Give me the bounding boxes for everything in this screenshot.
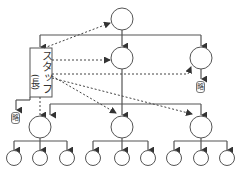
node-level3-center [111, 116, 133, 138]
omission-label-right: 略 [196, 81, 205, 93]
org-chart: スタッフ (長) 略 略 [0, 0, 244, 174]
node-level3-right [190, 116, 212, 138]
node-level2-right [190, 47, 212, 69]
node-level4 [7, 151, 22, 166]
node-top [111, 8, 133, 30]
node-level4 [220, 151, 235, 166]
staff-label: スタッフ [40, 50, 52, 94]
node-level4 [194, 151, 209, 166]
node-level4 [167, 151, 182, 166]
node-level4 [60, 151, 75, 166]
node-level2-center [111, 47, 133, 69]
node-level4 [86, 151, 101, 166]
node-level4 [141, 151, 156, 166]
node-level4 [33, 151, 48, 166]
node-level4 [115, 151, 130, 166]
node-level3-left [29, 116, 51, 138]
omission-label-left: 略 [11, 112, 20, 124]
staff-chief-label: (長) [30, 74, 40, 90]
